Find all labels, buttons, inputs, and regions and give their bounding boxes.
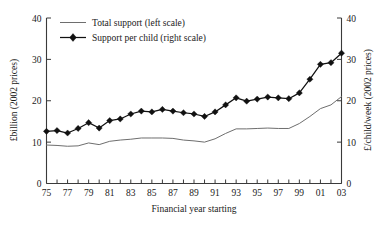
dual-axis-line-chart: 010203040 010203040 75777981838587899193… [0, 0, 383, 225]
left-tick-label: 40 [32, 14, 42, 24]
data-point-marker [265, 94, 271, 100]
right-tick-label: 30 [347, 55, 357, 65]
data-point-marker [254, 96, 260, 102]
x-tick-label: 95 [252, 188, 262, 198]
left-axis-ticks [47, 18, 52, 184]
x-tick-label: 75 [42, 188, 52, 198]
left-tick-label: 30 [32, 55, 42, 65]
x-tick-label: 89 [189, 188, 199, 198]
right-tick-label: 20 [347, 96, 357, 106]
legend: Total support (left scale) Support per c… [60, 18, 206, 44]
data-point-marker [54, 127, 60, 133]
data-point-marker [117, 116, 123, 122]
data-point-marker [43, 128, 49, 134]
x-axis-title: Financial year starting [152, 204, 237, 214]
left-axis-tick-labels: 010203040 [32, 14, 42, 190]
data-point-marker [64, 130, 70, 136]
data-point-marker [275, 95, 281, 101]
x-tick-label: 87 [168, 188, 178, 198]
left-tick-label: 10 [32, 138, 42, 148]
right-axis-tick-labels: 010203040 [347, 14, 357, 190]
data-point-marker [170, 108, 176, 114]
x-tick-label: 77 [63, 188, 73, 198]
data-point-marker [180, 110, 186, 116]
right-axis-title: £/child/week (2002 prices) [363, 49, 374, 151]
legend-label-total-support: Total support (left scale) [92, 18, 185, 29]
data-point-marker [159, 106, 165, 112]
x-axis-ticks [47, 180, 342, 184]
x-tick-label: 85 [147, 188, 157, 198]
x-tick-label: 83 [126, 188, 136, 198]
right-tick-label: 0 [347, 179, 352, 189]
data-point-marker [138, 108, 144, 114]
x-tick-label: 97 [274, 188, 284, 198]
data-point-marker [286, 96, 292, 102]
x-tick-label: 81 [105, 188, 115, 198]
data-point-marker [201, 113, 207, 119]
x-tick-label: 93 [231, 188, 241, 198]
data-point-marker [86, 120, 92, 126]
right-axis-ticks [337, 18, 342, 184]
x-tick-label: 91 [210, 188, 220, 198]
x-tick-label: 03 [337, 188, 347, 198]
left-axis-title: £billion (2002 prices) [9, 59, 20, 141]
left-tick-label: 20 [32, 96, 42, 106]
legend-label-support-per-child: Support per child (right scale) [92, 33, 206, 44]
data-point-marker [244, 98, 250, 104]
chart-container: 010203040 010203040 75777981838587899193… [0, 0, 383, 225]
right-tick-label: 10 [347, 138, 357, 148]
x-tick-label: 01 [316, 188, 326, 198]
x-tick-label: 99 [295, 188, 305, 198]
data-point-marker [191, 111, 197, 117]
data-point-marker [149, 109, 155, 115]
legend-marker-diamond-icon [70, 34, 77, 42]
data-point-marker [75, 125, 81, 131]
right-tick-label: 40 [347, 14, 357, 24]
x-axis-tick-labels: 757779818385878991939597990103 [42, 188, 347, 198]
data-point-marker [128, 111, 134, 117]
x-tick-label: 79 [84, 188, 94, 198]
